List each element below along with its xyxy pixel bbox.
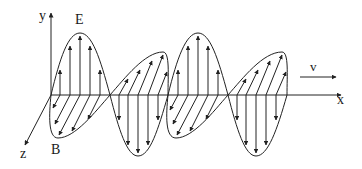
e-field-label: E [75,13,84,27]
b-field-label: B [51,143,60,157]
velocity-label: v [310,60,317,73]
z-axis [25,95,51,145]
z-axis-label: z [20,147,26,161]
x-axis-label: x [337,93,344,107]
y-axis-label: y [39,9,46,23]
